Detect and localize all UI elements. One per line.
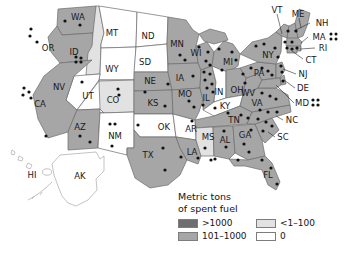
- state-label-HI: HI: [28, 170, 37, 180]
- legend-title: Metric tons of spent fuel: [178, 191, 345, 214]
- state-label-LA: LA: [187, 147, 198, 157]
- state-label-VA: VA: [251, 98, 262, 108]
- state-label-NV: NV: [53, 82, 65, 92]
- legend-label-high: >1000: [202, 218, 232, 228]
- state-AK-aleutians: [28, 182, 52, 200]
- legend-item-mid[interactable]: 101–1000: [178, 231, 256, 241]
- state-label-UT: UT: [82, 91, 94, 101]
- leader-NC: [276, 116, 283, 120]
- state-label-MA: MA: [312, 32, 325, 42]
- state-label-TX: TX: [141, 150, 153, 160]
- legend: Metric tons of spent fuel >1000 <1–100 1…: [178, 191, 345, 241]
- state-label-SD: SD: [139, 57, 151, 67]
- state-label-NJ: NJ: [299, 69, 308, 79]
- legend-label-zero: 0: [280, 231, 286, 241]
- state-label-NC: NC: [286, 115, 298, 125]
- state-label-MT: MT: [106, 28, 119, 38]
- state-label-SC: SC: [277, 132, 288, 142]
- state-label-OK: OK: [158, 122, 171, 132]
- state-label-IN: IN: [215, 87, 224, 97]
- state-label-MO: MO: [178, 89, 192, 99]
- state-label-DE: DE: [297, 83, 309, 93]
- state-label-MD: MD: [295, 98, 309, 108]
- state-label-KS: KS: [148, 98, 159, 108]
- state-label-MI: MI: [223, 57, 233, 67]
- state-label-AZ: AZ: [74, 122, 86, 132]
- state-label-AK: AK: [74, 171, 86, 181]
- state-label-CA: CA: [34, 99, 46, 109]
- state-label-KY: KY: [220, 101, 231, 111]
- state-label-GA: GA: [239, 130, 252, 140]
- state-label-ND: ND: [142, 31, 155, 41]
- state-label-WV: WV: [241, 88, 255, 98]
- state-label-AR: AR: [185, 124, 197, 134]
- leader-CT: [292, 51, 303, 59]
- state-label-NM: NM: [108, 131, 122, 141]
- state-label-VT: VT: [271, 5, 283, 15]
- state-label-ID: ID: [69, 47, 79, 57]
- legend-swatch-low: [256, 219, 276, 228]
- state-label-MN: MN: [170, 39, 184, 49]
- state-ND[interactable]: [136, 12, 168, 47]
- legend-label-mid: 101–1000: [202, 231, 247, 241]
- state-label-TN: TN: [227, 115, 240, 125]
- state-label-CT: CT: [305, 55, 317, 65]
- us-map: WA OR ID MT WY NV UT CA AZ CO NM ND SD N…: [0, 0, 345, 255]
- state-IA[interactable]: [168, 63, 201, 90]
- state-label-FL: FL: [263, 170, 273, 180]
- legend-item-high[interactable]: >1000: [178, 218, 256, 228]
- state-label-MS: MS: [202, 132, 215, 142]
- legend-label-low: <1–100: [280, 218, 315, 228]
- legend-swatch-mid: [178, 232, 198, 241]
- state-label-NH: NH: [316, 18, 329, 28]
- state-label-NY: NY: [262, 50, 274, 60]
- state-label-CO: CO: [107, 95, 120, 105]
- state-label-NE: NE: [144, 76, 156, 86]
- leader-NJ: [283, 69, 296, 74]
- state-label-WA: WA: [71, 12, 85, 22]
- legend-swatch-high: [178, 219, 198, 228]
- legend-swatch-zero: [256, 232, 276, 241]
- legend-item-zero[interactable]: 0: [256, 231, 345, 241]
- legend-item-low[interactable]: <1–100: [256, 218, 345, 228]
- state-label-IL: IL: [202, 93, 210, 103]
- leader-MA: [301, 37, 308, 43]
- legend-title-line2: of spent fuel: [178, 203, 345, 215]
- leader-RI: [300, 48, 315, 49]
- state-label-RI: RI: [319, 43, 327, 53]
- state-label-AL: AL: [220, 135, 231, 145]
- state-label-WI: WI: [191, 48, 202, 58]
- legend-title-line1: Metric tons: [178, 191, 345, 203]
- legend-items: >1000 <1–100 101–1000 0: [178, 218, 345, 241]
- state-label-OR: OR: [42, 43, 55, 53]
- state-label-ME: ME: [292, 9, 305, 19]
- state-label-WY: WY: [105, 64, 119, 74]
- state-label-IA: IA: [176, 73, 185, 83]
